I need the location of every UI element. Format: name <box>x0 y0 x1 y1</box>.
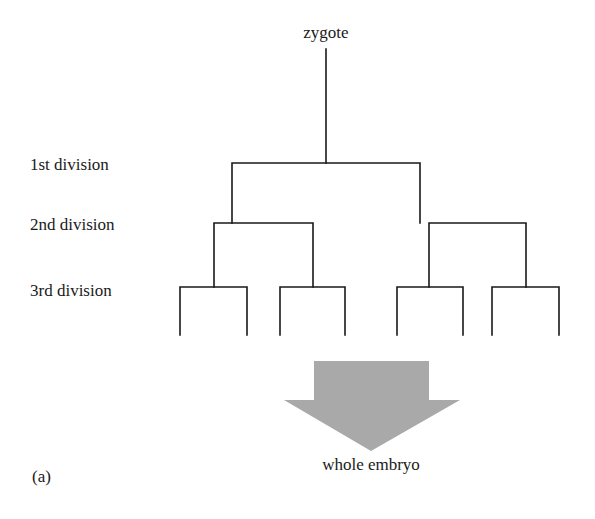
level-1-label: 1st division <box>30 155 109 174</box>
level-2-label: 2nd division <box>30 215 115 234</box>
panel-label: (a) <box>32 467 51 486</box>
cell-lineage-diagram: zygote 1st division 2nd division 3rd div… <box>0 0 595 519</box>
whole-embryo-label: whole embryo <box>322 455 420 474</box>
level-3-label: 3rd division <box>30 281 112 300</box>
lineage-tree <box>180 49 559 335</box>
down-arrow-icon <box>284 361 460 451</box>
zygote-label: zygote <box>303 23 348 42</box>
